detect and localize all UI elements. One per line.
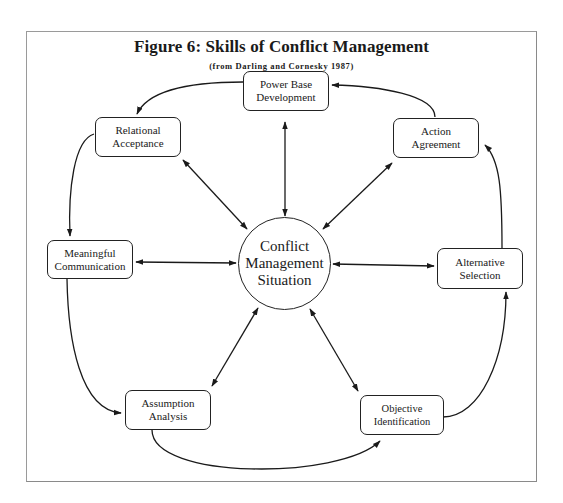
node-label: Power Base [260, 78, 312, 91]
node-action-agreement: Action Agreement [393, 118, 479, 158]
node-meaningful-communication: Meaningful Communication [47, 240, 133, 279]
curve-power-to-relational [137, 82, 243, 114]
node-label: Objective [382, 402, 423, 415]
center-label-line3: Situation [257, 272, 311, 289]
spoke-relational [183, 160, 247, 229]
curve-alternative-to-action [485, 145, 502, 248]
node-label: Relational [115, 124, 160, 137]
node-label: Identification [374, 415, 431, 428]
node-alternative-selection: Alternative Selection [437, 248, 523, 289]
spoke-alternative [333, 264, 434, 266]
center-label-line1: Conflict [260, 238, 309, 255]
node-label: Assumption [141, 397, 194, 410]
spoke-assumption [212, 308, 258, 386]
center-node-conflict-management-situation: Conflict Management Situation [238, 217, 331, 310]
node-label: Selection [460, 269, 501, 282]
curve-relational-to-meaningful [70, 134, 94, 236]
node-label: Alternative [455, 256, 504, 269]
node-label: Acceptance [112, 137, 163, 150]
node-power-base-development: Power Base Development [243, 71, 329, 111]
spoke-meaningful [136, 262, 236, 263]
node-label: Action [421, 125, 451, 138]
spoke-objective [310, 309, 358, 391]
node-label: Meaningful [64, 247, 115, 260]
curve-assumption-to-objective [152, 430, 380, 469]
node-relational-acceptance: Relational Acceptance [95, 117, 181, 157]
curve-objective-to-alternative [443, 292, 506, 417]
node-objective-identification: Objective Identification [360, 395, 444, 435]
node-label: Analysis [149, 410, 188, 423]
node-label: Development [256, 91, 315, 104]
node-label: Communication [55, 260, 126, 273]
center-label-line2: Management [245, 255, 323, 272]
curve-action-to-power [332, 85, 435, 117]
node-label: Agreement [412, 138, 461, 151]
spoke-action [323, 163, 392, 229]
node-assumption-analysis: Assumption Analysis [125, 390, 211, 430]
curve-meaningful-to-assumption [67, 279, 121, 413]
